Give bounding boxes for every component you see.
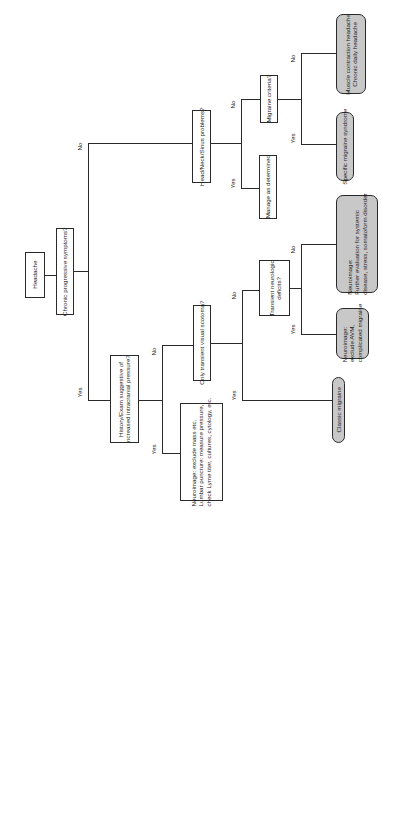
- text-line: Muscle contraction headache: [344, 14, 351, 95]
- node-neuroimage-mass: Neuroimage: exclude mass etc. Lumbar pun…: [180, 403, 223, 501]
- node-scotoma-text: Only transient visual scotoma?: [198, 301, 205, 385]
- node-manage: Manage as determined: [259, 155, 277, 219]
- label-no: No: [229, 101, 236, 109]
- node-avm-text: Neuroimage: exclude AVM, complicated mig…: [341, 304, 363, 362]
- label-yes: Yes: [76, 387, 83, 397]
- connector: [162, 345, 163, 453]
- node-specific-migraine: Specific migraine syndrome: [336, 112, 354, 181]
- label-yes: Yes: [150, 444, 157, 454]
- node-neuroimage-mass-text: Neuroimage: exclude mass etc. Lumbar pun…: [190, 398, 212, 507]
- node-chronic-progressive: Chronic progressive symptoms?: [56, 228, 74, 315]
- node-headache: Headache: [25, 252, 45, 298]
- text-line: increased intracranial pressure?: [125, 355, 132, 443]
- node-criteria-text: Migraine criteria?: [265, 75, 272, 122]
- node-transient-deficits: Transient neurologic deficits?: [259, 260, 290, 316]
- node-scotoma: Only transient visual scotoma?: [193, 305, 211, 381]
- connector: [241, 99, 260, 100]
- connector: [74, 271, 88, 272]
- node-muscle-contraction: Muscle contraction headache Chronic dail…: [336, 14, 366, 94]
- connector: [162, 453, 180, 454]
- label-no: No: [289, 55, 296, 63]
- text-line: Lumbar puncture: measure pressure,: [198, 398, 205, 507]
- connector: [301, 244, 336, 245]
- label-yes: Yes: [289, 133, 296, 143]
- connector: [301, 53, 336, 54]
- node-history-text: History/Exam suggestive of increased int…: [117, 355, 132, 443]
- label-yes: Yes: [230, 390, 237, 400]
- text-line: disease, stress, somatoform disorder: [361, 193, 368, 294]
- node-further-text: Neuroimage: Further evaluation for syste…: [346, 193, 368, 294]
- node-manage-text: Manage as determined: [264, 155, 271, 218]
- connector: [88, 143, 89, 401]
- node-specific-text: Specific migraine syndrome: [341, 109, 348, 185]
- connector: [88, 143, 192, 144]
- node-head-neck-sinus: Head/Neck/Sinus problems?: [192, 110, 211, 183]
- connector: [290, 288, 301, 289]
- connector: [301, 144, 336, 145]
- node-classic-migraine: Classic migraine: [332, 377, 345, 443]
- connector: [242, 290, 243, 401]
- label-no: No: [150, 348, 157, 356]
- node-headache-text: Headache: [31, 261, 38, 289]
- text-line: check Lyme titer, cultures, cytology, et…: [205, 398, 212, 507]
- node-transient-text: Transient neurologic deficits?: [267, 260, 282, 316]
- connector: [301, 244, 302, 335]
- text-line: deficits?: [275, 260, 282, 316]
- connector: [162, 345, 193, 346]
- node-history-exam: History/Exam suggestive of increased int…: [110, 355, 139, 443]
- label-yes: Yes: [289, 324, 296, 334]
- text-line: complicated migraine: [356, 304, 363, 362]
- node-chronic-text: Chronic progressive symptoms?: [61, 227, 68, 315]
- connector: [278, 99, 301, 100]
- node-neuroimage-avm: Neuroimage: exclude AVM, complicated mig…: [336, 308, 369, 359]
- connector: [301, 334, 336, 335]
- node-migraine-criteria: Migraine criteria?: [260, 75, 278, 123]
- connector: [301, 53, 302, 145]
- connector: [45, 275, 56, 276]
- connector: [139, 400, 162, 401]
- connector: [211, 143, 241, 144]
- connector: [242, 400, 332, 401]
- connector: [242, 290, 259, 291]
- label-yes: Yes: [229, 178, 236, 188]
- connector: [241, 99, 242, 189]
- node-neuroimage-further: Neuroimage: Further evaluation for syste…: [336, 195, 378, 293]
- label-no: No: [76, 143, 83, 151]
- node-headneck-text: Head/Neck/Sinus problems?: [198, 107, 205, 185]
- connector: [211, 343, 242, 344]
- connector: [88, 400, 110, 401]
- text-line: Transient neurologic: [267, 260, 274, 316]
- connector: [241, 188, 259, 189]
- label-no: No: [230, 292, 237, 300]
- node-muscle-text: Muscle contraction headache Chronic dail…: [344, 14, 359, 95]
- text-line: Chronic daily headache: [351, 14, 358, 95]
- node-classic-text: Classic migraine: [335, 387, 342, 432]
- flowchart-canvas: Headache Chronic progressive symptoms? N…: [0, 0, 393, 813]
- label-no: No: [289, 246, 296, 254]
